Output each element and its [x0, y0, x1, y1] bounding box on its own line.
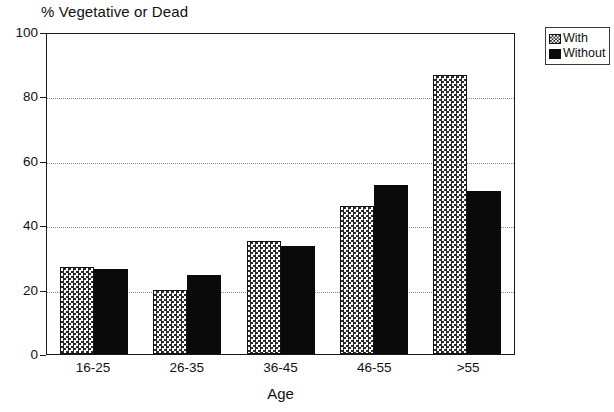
x-axis-tick-label: 16-25 [46, 360, 140, 380]
bar-group [327, 34, 420, 354]
x-axis-tick-labels: 16-2526-3536-4546-55>55 [46, 360, 515, 380]
bar-group [140, 34, 233, 354]
bar-without-2635 [187, 275, 221, 354]
bar-without-3645 [281, 246, 315, 354]
legend-item-with: With [549, 31, 605, 46]
x-axis-tick-label: 46-55 [327, 360, 421, 380]
legend-swatch-with-icon [549, 34, 561, 44]
legend-item-without: Without [549, 46, 605, 61]
y-axis-tick-label: 40 [2, 218, 38, 233]
bar-chart-figure: % Vegetative or Dead 020406080100 16-252… [0, 0, 614, 412]
bar-without-1625 [94, 269, 128, 354]
y-axis-tick-label: 60 [2, 154, 38, 169]
y-axis-tick-mark [40, 355, 46, 356]
legend-swatch-without-icon [549, 49, 561, 59]
plot-area [46, 33, 515, 355]
bar-with-4655 [340, 206, 374, 354]
x-axis-tick-label: >55 [421, 360, 515, 380]
bar-with-1625 [60, 267, 94, 354]
bar-with-3645 [247, 241, 281, 354]
legend: With Without [545, 27, 610, 65]
bar-with-55 [433, 75, 467, 354]
bar-with-2635 [153, 290, 187, 354]
legend-label-without: Without [563, 47, 605, 60]
y-axis-title: % Vegetative or Dead [41, 3, 188, 20]
bars-group [47, 34, 514, 354]
bar-without-55 [467, 191, 501, 354]
bar-group [47, 34, 140, 354]
x-axis-tick-label: 26-35 [140, 360, 234, 380]
x-axis-tick-label: 36-45 [234, 360, 328, 380]
legend-label-with: With [563, 32, 588, 45]
y-axis-tick-label: 20 [2, 283, 38, 298]
y-axis-tick-label: 80 [2, 89, 38, 104]
y-axis-tick-label: 0 [2, 347, 38, 362]
x-axis-title: Age [46, 385, 515, 402]
bar-group [234, 34, 327, 354]
bar-group [421, 34, 514, 354]
bar-without-4655 [374, 185, 408, 354]
y-axis-tick-label: 100 [2, 25, 38, 40]
